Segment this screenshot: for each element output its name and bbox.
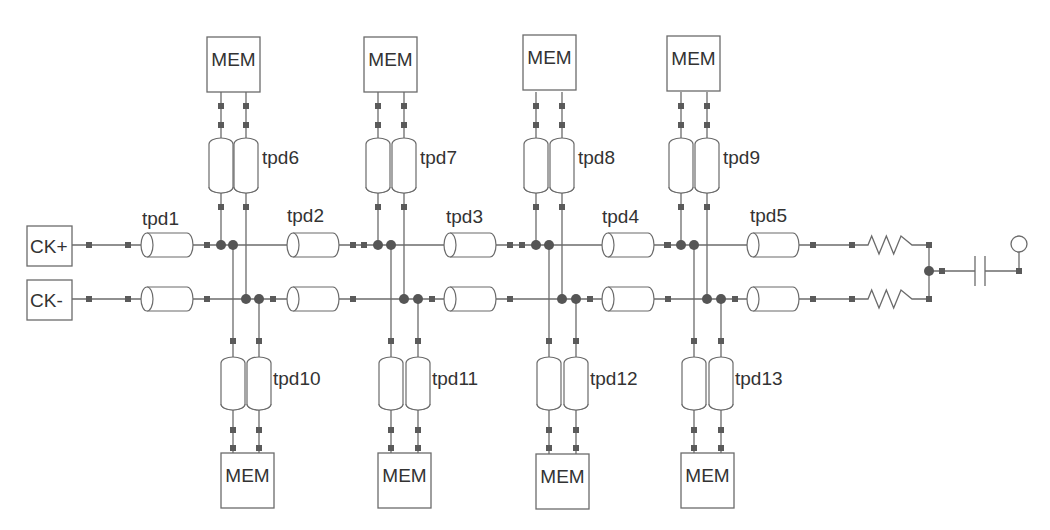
junction-dot <box>413 294 423 304</box>
pin-dot <box>415 445 421 451</box>
pin-dot <box>86 296 92 302</box>
mem-label: MEM <box>225 465 269 486</box>
pin-dot <box>243 122 249 128</box>
pin-dot <box>810 296 816 302</box>
junction-dot <box>716 294 726 304</box>
cylinder-end <box>564 404 588 410</box>
pin-dot <box>218 204 224 210</box>
cylinder-body <box>221 357 245 410</box>
cylinder-end <box>379 404 403 410</box>
components: CK+CK-tpd1tpd2tpd3tpd4tpd5tpd6MEMtpd10ME… <box>27 35 1027 509</box>
mem-top-4: MEM <box>667 36 720 91</box>
pin-dot <box>375 204 381 210</box>
pin-dot <box>691 427 697 433</box>
tap-label-top: tpd8 <box>578 147 615 168</box>
pin-dot <box>810 242 816 248</box>
series-line-tpd4-n <box>602 287 654 311</box>
cylinder-end <box>537 404 561 410</box>
tap-line-bottom-left <box>379 357 403 410</box>
mem-top-3: MEM <box>523 35 576 90</box>
cylinder-end <box>247 404 271 410</box>
tap-line-bottom-left <box>537 357 561 410</box>
cylinder-end <box>366 187 390 193</box>
cylinder-body <box>366 138 390 193</box>
source-label: CK- <box>30 290 63 311</box>
cylinder-end <box>406 404 430 410</box>
pin-dot <box>86 242 92 248</box>
junction-dot <box>676 240 686 250</box>
circuit-schematic: CK+CK-tpd1tpd2tpd3tpd4tpd5tpd6MEMtpd10ME… <box>0 0 1050 530</box>
tap-line-top-left <box>669 138 693 193</box>
pin-dot <box>361 242 367 248</box>
pin-dot <box>678 204 684 210</box>
series-line-label: tpd1 <box>142 208 179 229</box>
pin-dot <box>243 103 249 109</box>
pin-dot <box>691 338 697 344</box>
junction-dot <box>924 266 934 276</box>
cylinder-end <box>221 404 245 410</box>
pin-dot <box>256 445 262 451</box>
junction-dot <box>386 240 396 250</box>
mem-label: MEM <box>382 465 426 486</box>
cylinder-body <box>406 357 430 410</box>
pin-dot <box>678 122 684 128</box>
series-line-label: tpd4 <box>602 206 639 227</box>
pin-dot <box>559 103 565 109</box>
pin-dot <box>401 122 407 128</box>
tap-line-bottom-right <box>564 357 588 410</box>
cylinder-body <box>709 357 733 410</box>
tap-line-bottom-left <box>221 357 245 410</box>
mem-bottom-2: MEM <box>378 453 431 508</box>
pin-dot <box>388 427 394 433</box>
tap-label-bottom: tpd13 <box>735 368 783 389</box>
pin-dot <box>388 338 394 344</box>
pin-dot <box>533 103 539 109</box>
series-line-tpd3-p <box>444 233 496 257</box>
mem-label: MEM <box>211 49 255 70</box>
source-ck-plus: CK+ <box>27 226 72 266</box>
cylinder-end <box>695 187 719 193</box>
pin-dot <box>849 296 855 302</box>
tap-line-bottom-right <box>709 357 733 410</box>
pin-dot <box>230 427 236 433</box>
pin-dot <box>718 338 724 344</box>
source-ck-minus: CK- <box>27 280 72 320</box>
pin-dot <box>125 242 131 248</box>
cylinder-body <box>669 138 693 193</box>
source-label: CK+ <box>30 236 68 257</box>
pin-dot <box>533 122 539 128</box>
pin-dot <box>401 103 407 109</box>
junction-dot <box>241 294 251 304</box>
pin-dot <box>375 122 381 128</box>
series-line-tpd5-n <box>747 287 799 311</box>
pin-dot <box>401 204 407 210</box>
pin-dot <box>939 268 945 274</box>
pin-dot <box>732 296 738 302</box>
pin-dot <box>230 445 236 451</box>
pin-dot <box>559 204 565 210</box>
pin-dot <box>243 204 249 210</box>
pin-dot <box>507 242 513 248</box>
tap-label-bottom: tpd10 <box>273 368 321 389</box>
pin-dot <box>704 103 710 109</box>
series-line-tpd1-p <box>141 233 193 257</box>
pin-dot <box>375 103 381 109</box>
pin-dot <box>704 122 710 128</box>
cylinder-body <box>682 357 706 410</box>
pin-dot <box>678 103 684 109</box>
tap-line-top-right <box>234 138 258 193</box>
tap-line-top-left <box>366 138 390 193</box>
series-line-tpd1-n <box>141 287 193 311</box>
cylinder-body <box>695 138 719 193</box>
mem-top-1: MEM <box>207 37 260 92</box>
pin-dot <box>546 338 552 344</box>
cylinder-end <box>234 187 258 193</box>
series-line-label: tpd5 <box>750 205 787 226</box>
tap-line-bottom-right <box>247 357 271 410</box>
pin-dot <box>573 338 579 344</box>
pin-dot <box>533 204 539 210</box>
cylinder-end <box>550 187 574 193</box>
mem-bottom-1: MEM <box>221 453 274 508</box>
probe-terminal-icon <box>1011 236 1027 252</box>
tap-line-top-right <box>695 138 719 193</box>
